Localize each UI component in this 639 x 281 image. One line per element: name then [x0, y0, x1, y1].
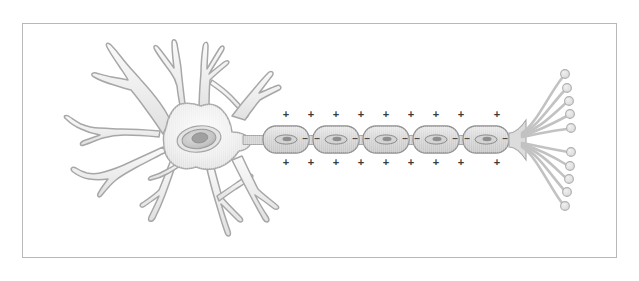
- charge-plus-bottom: +: [433, 156, 439, 168]
- charge-plus-bottom: +: [383, 156, 389, 168]
- charge-minus-node: –: [364, 133, 370, 144]
- synaptic-bouton: [563, 188, 572, 197]
- charge-plus-top: +: [408, 108, 414, 120]
- charge-plus-top: +: [458, 108, 464, 120]
- synaptic-bouton: [565, 175, 574, 184]
- schwann-nucleolus: [483, 137, 492, 141]
- charge-plus-bottom: +: [308, 156, 314, 168]
- schwann-nucleolus: [283, 137, 292, 141]
- charge-plus-bottom: +: [283, 156, 289, 168]
- charge-plus-top: +: [283, 108, 289, 120]
- charge-plus-top: +: [433, 108, 439, 120]
- myelin-sheath-group: [263, 126, 509, 153]
- synaptic-bouton: [566, 110, 575, 119]
- charge-minus-node: –: [352, 133, 358, 144]
- charge-plus-bottom: +: [358, 156, 364, 168]
- schwann-nucleolus: [433, 137, 442, 141]
- charge-plus-bottom: +: [494, 156, 500, 168]
- synaptic-bouton: [563, 84, 572, 93]
- charge-minus-node: –: [314, 133, 320, 144]
- charge-plus-top: +: [494, 108, 500, 120]
- charge-minus-node: –: [302, 133, 308, 144]
- schwann-nucleolus: [383, 137, 392, 141]
- charge-plus-top: +: [383, 108, 389, 120]
- neuron-diagram-figure: + + + + + + + + + + + + + + + + + + – – …: [0, 0, 639, 281]
- charge-minus-node: –: [452, 133, 458, 144]
- charge-plus-bottom: +: [458, 156, 464, 168]
- charge-plus-top: +: [358, 108, 364, 120]
- charge-minus-node: –: [414, 133, 420, 144]
- synaptic-bouton: [561, 70, 570, 79]
- synaptic-bouton: [567, 148, 576, 157]
- charge-plus-top: +: [333, 108, 339, 120]
- charge-plus-top: +: [308, 108, 314, 120]
- schwann-nucleolus: [333, 137, 342, 141]
- charge-plus-bottom: +: [408, 156, 414, 168]
- charge-minus-node: –: [502, 133, 508, 144]
- charge-minus-node: –: [464, 133, 470, 144]
- synaptic-bouton: [561, 202, 570, 211]
- synaptic-bouton: [566, 162, 575, 171]
- charge-plus-bottom: +: [333, 156, 339, 168]
- synaptic-bouton: [567, 124, 576, 133]
- synaptic-bouton: [565, 97, 574, 106]
- charge-minus-node: –: [402, 133, 408, 144]
- neuron-illustration: + + + + + + + + + + + + + + + + + + – – …: [0, 0, 639, 281]
